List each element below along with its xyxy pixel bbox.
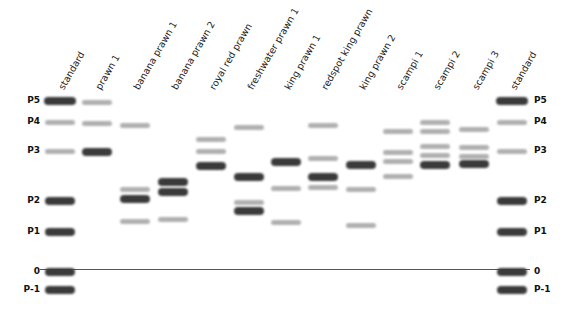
lane-label: prawn 1	[93, 53, 122, 92]
gel-band	[308, 156, 338, 161]
gel-band	[420, 144, 450, 149]
size-marker-left: 0	[34, 266, 40, 276]
gel-band	[497, 149, 527, 154]
lane-label: scampi 1	[394, 49, 425, 92]
gel-band	[44, 97, 76, 105]
gel-band	[271, 158, 301, 166]
gel-band	[120, 195, 150, 203]
origin-baseline	[40, 269, 530, 270]
size-marker-left: P3	[27, 145, 40, 155]
lane-label: king prawn 1	[282, 32, 322, 91]
gel-band	[45, 149, 75, 154]
lane-label: standard	[508, 50, 539, 92]
gel-band	[420, 153, 450, 158]
gel-band	[45, 120, 75, 125]
gel-band	[346, 223, 376, 228]
gel-band	[234, 200, 264, 205]
gel-band	[383, 129, 413, 134]
size-marker-left: P1	[27, 226, 40, 236]
size-marker-right: P4	[534, 116, 547, 126]
gel-band	[234, 207, 264, 215]
gel-band	[459, 127, 489, 132]
size-marker-left: P2	[27, 195, 40, 205]
gel-band	[158, 188, 188, 196]
gel-band	[158, 178, 188, 186]
size-marker-right: P1	[534, 226, 547, 236]
gel-band	[196, 137, 226, 142]
gel-band	[271, 186, 301, 191]
gel-band	[45, 286, 75, 294]
gel-band	[459, 160, 489, 168]
gel-band	[120, 219, 150, 224]
size-marker-right: P-1	[534, 284, 550, 294]
gel-band	[308, 173, 338, 181]
gel-band	[271, 220, 301, 225]
lane-label: scampi 2	[431, 49, 462, 92]
gel-band	[234, 125, 264, 130]
gel-band	[45, 228, 75, 236]
gel-band	[308, 185, 338, 190]
gel-band	[383, 150, 413, 155]
gel-band	[45, 197, 75, 205]
size-marker-right: P5	[534, 95, 547, 105]
gel-band	[459, 145, 489, 150]
size-marker-left: P5	[27, 95, 40, 105]
gel-band	[497, 286, 527, 294]
gel-band	[158, 217, 188, 222]
gel-band	[497, 197, 527, 205]
gel-band	[497, 268, 527, 276]
gel-band	[196, 149, 226, 154]
gel-band	[45, 268, 75, 276]
gel-band	[497, 228, 527, 236]
gel-band	[82, 148, 112, 156]
gel-band	[308, 123, 338, 128]
size-marker-right: 0	[534, 266, 540, 276]
gel-band	[82, 100, 112, 105]
gel-band	[497, 120, 527, 125]
size-marker-left: P4	[27, 116, 40, 126]
gel-band	[420, 161, 450, 169]
gel-band	[383, 159, 413, 164]
lane-label: king prawn 2	[357, 32, 397, 91]
gel-band	[196, 162, 226, 170]
size-marker-right: P2	[534, 195, 547, 205]
gel-band	[120, 187, 150, 192]
gel-diagram: standardprawn 1banana prawn 1banana praw…	[0, 0, 568, 311]
size-marker-right: P3	[534, 145, 547, 155]
gel-band	[496, 97, 528, 105]
lane-label: scampi 3	[470, 49, 501, 92]
gel-band	[346, 187, 376, 192]
gel-band	[420, 120, 450, 125]
lane-label: standard	[56, 50, 87, 92]
gel-band	[82, 121, 112, 126]
gel-band	[383, 174, 413, 179]
size-marker-left: P-1	[24, 284, 40, 294]
gel-band	[234, 173, 264, 181]
gel-band	[120, 123, 150, 128]
gel-band	[459, 154, 489, 159]
gel-band	[346, 161, 376, 169]
gel-band	[420, 129, 450, 134]
